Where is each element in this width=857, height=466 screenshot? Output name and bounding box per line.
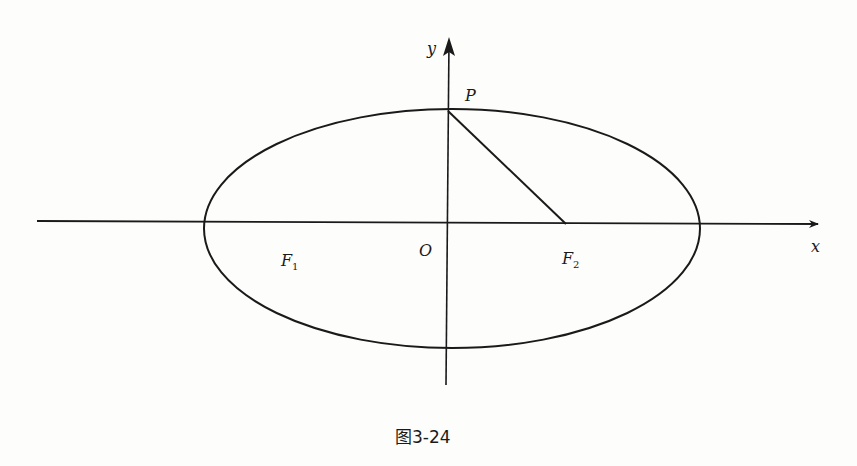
ellipse <box>204 109 700 348</box>
focus-f1-subscript: 1 <box>292 261 298 272</box>
focus-f1-letter: F <box>280 251 293 270</box>
focus-f2-letter: F <box>561 249 574 268</box>
focus-f2-label: F2 <box>561 249 579 270</box>
x-axis-label: x <box>811 237 820 256</box>
ellipse-diagram: y x O P F1 F2 图3-24 <box>0 0 857 466</box>
figure-caption: 图3-24 <box>395 427 451 447</box>
origin-label: O <box>419 241 432 260</box>
focus-f2-subscript: 2 <box>573 259 579 270</box>
y-axis <box>446 40 449 385</box>
point-p-label: P <box>464 86 476 105</box>
x-axis <box>37 221 818 224</box>
segment-p-f2 <box>448 111 566 224</box>
focus-f1-label: F1 <box>280 251 298 272</box>
y-axis-label: y <box>426 39 437 58</box>
